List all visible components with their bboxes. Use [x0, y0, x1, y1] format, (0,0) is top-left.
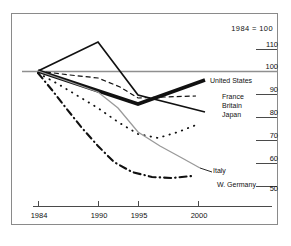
series-label-w-germany: W. Germany — [217, 181, 256, 188]
chart-figure: 1984 = 100 — [0, 0, 291, 246]
series-label-britain: Britain — [222, 102, 242, 109]
y-tick-label-50: 50 — [256, 185, 278, 193]
y-tick-label-70: 70 — [256, 132, 278, 140]
x-tick-label-2000: 2000 — [184, 212, 214, 220]
series-label-france: France — [222, 93, 244, 100]
y-tick-label-60: 60 — [256, 155, 278, 163]
label-leader-lines — [200, 168, 212, 172]
series-label-japan: Japan — [222, 111, 241, 118]
x-axis — [33, 201, 272, 207]
y-tick-label-80: 80 — [256, 109, 278, 117]
series-line-w-germany — [38, 73, 192, 178]
series-line-japan — [38, 71, 205, 104]
chart-plot-area — [0, 0, 291, 246]
y-tick-label-90: 90 — [256, 86, 278, 94]
series-line-britain — [38, 73, 196, 138]
series-label-italy: Italy — [213, 167, 226, 174]
series-line-italy — [38, 71, 200, 168]
series-line-france — [38, 71, 196, 98]
series-label-united-states: United States — [210, 77, 252, 84]
series-line-united-states — [38, 42, 205, 112]
y-tick-label-110: 110 — [256, 41, 278, 49]
y-tick-label-100: 100 — [256, 63, 278, 71]
x-tick-label-1984: 1984 — [24, 212, 54, 220]
x-tick-label-1990: 1990 — [84, 212, 114, 220]
x-tick-label-1995: 1995 — [124, 212, 154, 220]
